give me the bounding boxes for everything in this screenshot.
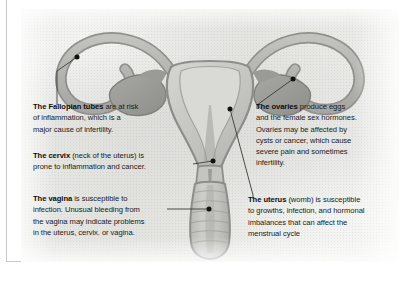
callout-fallopian-line-2: major cause of infertility. [33,124,138,135]
callout-fallopian-line-0: The Fallopian tubes are at risk [33,101,138,112]
callout-vagina: The vagina is susceptible to infection. … [33,193,145,238]
callout-vagina-tail: is susceptible to [72,194,127,203]
leader-dot-vagina [207,207,212,212]
vagina-group [190,182,230,259]
leader-dot-fallopian [75,55,80,60]
callout-fallopian-line-1: of inflammation, which is a [33,112,138,123]
callout-vagina-line-1: infection. Unusual bleeding from [33,204,145,215]
callout-ovaries-line-4: severe pain and sometimes [256,146,357,157]
callout-ovaries-line-5: infertility. [256,157,357,168]
callout-fallopian-tubes: The Fallopian tubes are at risk of infla… [33,101,138,135]
callout-fallopian-lead: The Fallopian tubes [33,102,103,111]
callout-uterus-line-2: imbalances that can affect the [248,217,364,228]
callout-fallopian-tail: are at risk [103,102,138,111]
leader-dot-cervix [211,159,216,164]
callout-ovaries-line-3: cysts or cancer, which cause [256,135,357,146]
callout-vagina-line-2: the vagina may indicate problems [33,216,145,227]
page: The Fallopian tubes are at risk of infla… [0,0,419,285]
callout-uterus-line-0: The uterus (womb) is susceptible [248,194,364,205]
callout-uterus-lead: The uterus [248,195,286,204]
callout-cervix-line-0: The cervix (neck of the uterus) is [33,150,146,161]
callout-ovaries-line-0: The ovaries produce eggs [256,101,357,112]
callout-uterus-line-3: menstrual cycle [248,228,364,239]
callout-ovaries: The ovaries produce eggs and the female … [256,101,357,169]
leader-dot-uterus [228,107,233,112]
uterus-body-group [167,61,253,171]
callout-uterus-line-1: to growths, infection, and hormonal [248,205,364,216]
callout-vagina-line-3: in the uterus, cervix. or vagina. [33,227,145,238]
callout-ovaries-lead: The ovaries [256,102,298,111]
callout-uterus-tail: (womb) is susceptible [286,195,360,204]
callout-cervix-lead: The cervix [33,151,70,160]
callout-cervix-line-1: prone to inflammation and cancer. [33,161,146,172]
callout-cervix: The cervix (neck of the uterus) is prone… [33,150,146,173]
callout-ovaries-tail: produce eggs [298,102,345,111]
callout-vagina-line-0: The vagina is susceptible to [33,193,145,204]
leader-dot-ovaries [291,77,296,82]
callout-vagina-lead: The vagina [33,194,72,203]
callout-ovaries-line-2: Ovaries may be affected by [256,124,357,135]
vaginal-canal [206,185,215,253]
callout-ovaries-line-1: and the female sex hormones. [256,112,357,123]
callout-cervix-tail: (neck of the uterus) is [70,151,144,160]
callout-uterus: The uterus (womb) is susceptible to grow… [248,194,364,239]
page-border-left [6,0,7,262]
